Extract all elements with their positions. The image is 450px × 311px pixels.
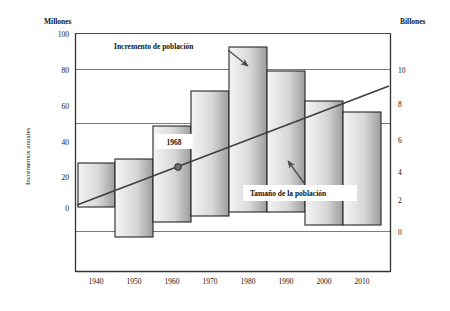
x-tick-1960: 1960 <box>165 277 180 286</box>
x-tick-1940: 1940 <box>89 277 104 286</box>
bar-1940 <box>78 163 115 207</box>
x-tick-2010: 2010 <box>355 277 370 286</box>
left-axis-title: Millones <box>44 17 72 26</box>
right-tick-4: 4 <box>398 168 402 177</box>
bar-1950 <box>115 159 153 237</box>
left-tick-20: 20 <box>62 173 70 182</box>
right-tick-0: 0 <box>398 228 402 237</box>
annotation-incremento-text: Incremento de población <box>114 42 194 51</box>
left-tick-0: 0 <box>65 204 69 213</box>
left-tick-80: 80 <box>62 66 70 75</box>
label-1968-text: 1968 <box>167 138 182 147</box>
left-tick-100: 100 <box>58 30 70 39</box>
x-tick-1950: 1950 <box>127 277 142 286</box>
label-1968: 1968 <box>155 134 193 149</box>
bar-2010 <box>343 112 381 225</box>
left-tick-60: 60 <box>62 102 70 111</box>
right-axis-title: Billones <box>400 17 426 26</box>
x-tick-2000: 2000 <box>317 277 332 286</box>
population-chart: 1968 Incremento de población Tamaño de l… <box>0 0 450 311</box>
x-tick-1970: 1970 <box>203 277 218 286</box>
right-tick-6: 6 <box>398 136 402 145</box>
bar-2000 <box>305 101 343 225</box>
right-tick-2: 2 <box>398 196 402 205</box>
marker-1968-dot <box>175 164 182 171</box>
right-tick-8: 8 <box>398 100 402 109</box>
x-tick-1980: 1980 <box>241 277 256 286</box>
annotation-tamano-text: Tamaño de la población <box>250 189 327 198</box>
right-tick-10: 10 <box>398 66 406 75</box>
x-tick-1990: 1990 <box>279 277 294 286</box>
left-tick-40: 40 <box>62 138 70 147</box>
chart-container: 1968 Incremento de población Tamaño de l… <box>0 0 450 311</box>
left-axis-label: Incrementos anuales <box>24 127 32 185</box>
